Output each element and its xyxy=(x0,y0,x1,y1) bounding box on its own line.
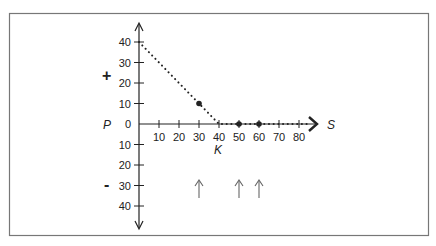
y-tick-label: 30 xyxy=(119,57,131,69)
y-tick-label: 40 xyxy=(119,36,131,48)
y-tick-label: 30 xyxy=(119,180,131,192)
y-tick-label: 10 xyxy=(119,98,131,110)
x-tick-label: 20 xyxy=(173,131,185,143)
data-point xyxy=(236,121,242,127)
data-point xyxy=(196,101,202,107)
x-tick-label: 10 xyxy=(153,131,165,143)
x-tick-label: 70 xyxy=(273,131,285,143)
y-tick-label: 40 xyxy=(119,200,131,212)
y-axis-label: P xyxy=(103,118,111,132)
y-tick-label: 10 xyxy=(119,139,131,151)
strike-label: K xyxy=(214,143,223,157)
positive-region-label: + xyxy=(102,67,111,84)
annotation-arrows xyxy=(195,180,263,198)
axes xyxy=(135,23,317,229)
highlighted-points xyxy=(196,101,262,127)
x-tick-label: 50 xyxy=(233,131,245,143)
y-tick-label: 20 xyxy=(119,159,131,171)
x-tick-label: 40 xyxy=(213,131,225,143)
y-zero-label: 0 xyxy=(125,118,131,130)
series xyxy=(139,42,309,124)
negative-region-label: - xyxy=(104,176,109,193)
x-tick-label: 60 xyxy=(253,131,265,143)
x-tick-label: 80 xyxy=(293,131,305,143)
data-point xyxy=(256,121,262,127)
y-tick-label: 20 xyxy=(119,77,131,89)
x-axis-label: S xyxy=(327,118,335,132)
payoff-chart: 102030405060708040302010010203040 P S K … xyxy=(0,0,436,246)
x-tick-label: 30 xyxy=(193,131,205,143)
payoff-line xyxy=(139,42,309,124)
